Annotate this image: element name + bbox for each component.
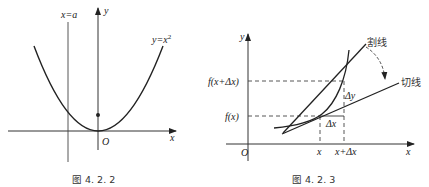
tangent-line (282, 83, 399, 134)
figure-caption: 图 4. 2. 2 (72, 174, 115, 185)
f-x-label: f(x) (225, 111, 240, 123)
x-dx-tick-label: x+Δx (334, 146, 357, 157)
figure-4-2-2: x=a y x O y=x2 图 4. 2. 2 (8, 5, 176, 185)
curve-label-base: y=x (151, 34, 168, 45)
curve-label-exponent: 2 (168, 33, 172, 41)
figure-caption: 图 4. 2. 3 (292, 174, 335, 185)
f-x-dx-label: f(x+Δx) (208, 76, 240, 88)
x-axis-label: x (169, 132, 175, 143)
line-label: x=a (60, 9, 77, 20)
point-dot (96, 113, 100, 117)
y-axis-label: y (239, 31, 245, 42)
y-axis-label: y (103, 5, 109, 16)
origin-label: O (102, 136, 109, 147)
tangent-label: 切线 (401, 76, 421, 88)
origin-label: O (241, 147, 248, 158)
figure-4-2-3: y O x f(x+Δx) f(x) x x+Δx Δy Δx 割线 切线 图 … (208, 31, 421, 185)
rotation-arrow (366, 47, 385, 79)
delta-x-label: Δx (325, 118, 337, 129)
x-axis-label: x (405, 146, 411, 157)
figures-canvas: x=a y x O y=x2 图 4. 2. 2 y O x f(x+Δx) f… (0, 0, 429, 187)
curve-label: y=x2 (151, 33, 172, 45)
secant-line (283, 44, 366, 133)
x-tick-label: x (316, 146, 322, 157)
secant-label: 割线 (367, 36, 387, 48)
delta-y-label: Δy (344, 90, 356, 101)
